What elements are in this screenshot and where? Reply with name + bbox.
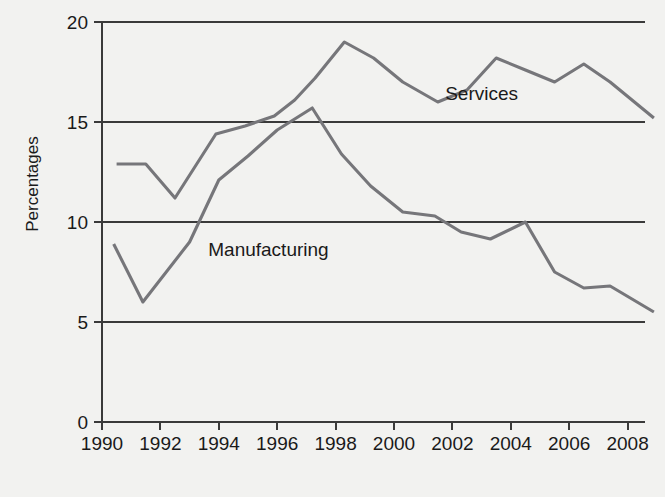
y-tick-label-0: 0 (77, 412, 88, 433)
x-tick-label-2008: 2008 (606, 433, 648, 454)
x-tick-labels-group: 1990199219941996199820002002200420062008 (81, 433, 649, 454)
y-tick-label-10: 10 (67, 212, 88, 233)
series-label-manufacturing: Manufacturing (208, 239, 328, 260)
data-series-group (114, 42, 654, 312)
y-tick-label-15: 15 (67, 112, 88, 133)
y-tick-labels-group: 05101520 (67, 12, 88, 433)
series-label-services: Services (445, 83, 518, 104)
y-tick-label-20: 20 (67, 12, 88, 33)
y-axis-title: Percentages (23, 136, 42, 231)
y-tick-label-5: 5 (77, 312, 88, 333)
x-tick-label-1998: 1998 (314, 433, 356, 454)
x-tick-label-1996: 1996 (256, 433, 298, 454)
x-tick-label-2002: 2002 (431, 433, 473, 454)
chart-canvas: 05101520 1990199219941996199820002002200… (0, 0, 665, 497)
line-chart: 05101520 1990199219941996199820002002200… (0, 0, 665, 497)
x-tick-label-1992: 1992 (139, 433, 181, 454)
x-tick-label-1994: 1994 (198, 433, 241, 454)
series-line-services (117, 42, 654, 198)
x-tick-label-2004: 2004 (490, 433, 533, 454)
tick-marks-group (94, 22, 628, 430)
x-tick-label-2006: 2006 (548, 433, 590, 454)
x-tick-label-1990: 1990 (81, 433, 123, 454)
series-line-manufacturing (114, 108, 654, 312)
x-tick-label-2000: 2000 (373, 433, 415, 454)
